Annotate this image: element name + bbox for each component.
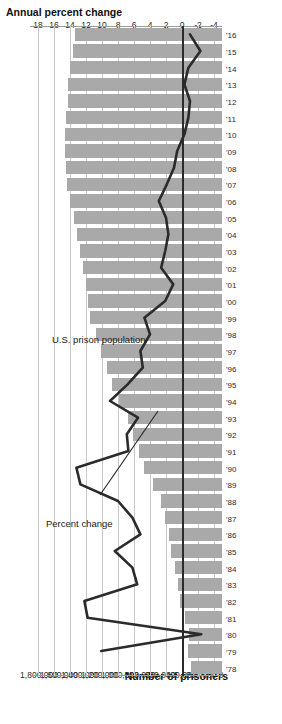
bar: [75, 28, 222, 41]
bar: [70, 194, 222, 207]
bar: [178, 578, 222, 591]
year-tick-label: '80: [226, 631, 236, 640]
bar: [107, 361, 222, 374]
year-tick-label: '79: [226, 648, 236, 657]
chart-stage: Annual percent change Number of prisoner…: [0, 0, 282, 724]
bar: [185, 611, 222, 624]
year-tick-label: '88: [226, 498, 236, 507]
bar: [80, 244, 222, 257]
year-tick-label: '09: [226, 148, 236, 157]
year-tick-label: '05: [226, 215, 236, 224]
year-tick-label: '81: [226, 615, 236, 624]
bar: [83, 261, 222, 274]
year-tick-label: '84: [226, 565, 236, 574]
bar: [165, 511, 222, 524]
bar: [180, 594, 222, 607]
year-tick-label: '90: [226, 465, 236, 474]
year-tick-label: '92: [226, 431, 236, 440]
bar: [189, 628, 222, 641]
annotation-percent-change: Percent change: [46, 518, 113, 529]
bar: [101, 344, 222, 357]
year-tick-label: '82: [226, 598, 236, 607]
bar: [112, 378, 222, 391]
year-tick-label: '97: [226, 348, 236, 357]
bar: [65, 144, 222, 157]
bar: [77, 228, 222, 241]
bar: [65, 128, 222, 141]
year-tick-label: '87: [226, 515, 236, 524]
bar: [66, 111, 222, 124]
year-tick-label: '96: [226, 365, 236, 374]
year-tick-label: '02: [226, 265, 236, 274]
year-tick-label: '15: [226, 48, 236, 57]
year-tick-label: '08: [226, 165, 236, 174]
bar: [161, 494, 222, 507]
bar: [66, 161, 222, 174]
year-tick-label: '14: [226, 65, 236, 74]
year-tick-label: '83: [226, 581, 236, 590]
annotation-leader-line: [96, 407, 166, 497]
year-tick-label: '98: [226, 331, 236, 340]
year-tick-label: '06: [226, 198, 236, 207]
bar: [90, 311, 222, 324]
bar: [86, 278, 222, 291]
year-tick-label: '85: [226, 548, 236, 557]
bar: [191, 661, 222, 674]
year-tick-label: '07: [226, 181, 236, 190]
year-tick-label: '13: [226, 81, 236, 90]
bar: [68, 78, 222, 91]
year-tick-label: '12: [226, 98, 236, 107]
bar: [67, 178, 222, 191]
annotation-prison-population: U.S. prison population: [52, 334, 145, 345]
year-tick-label: '03: [226, 248, 236, 257]
bar: [68, 94, 222, 107]
bar-series-prison-population: [30, 26, 222, 676]
bar: [88, 294, 223, 307]
year-tick-label: '93: [226, 415, 236, 424]
year-tick-label: '10: [226, 131, 236, 140]
bar: [73, 44, 222, 57]
year-tick-label: '91: [226, 448, 236, 457]
year-tick-label: '86: [226, 531, 236, 540]
bar: [119, 394, 222, 407]
bar: [171, 544, 222, 557]
year-tick-label: '04: [226, 231, 236, 240]
year-tick-label: '89: [226, 481, 236, 490]
year-tick-label: '95: [226, 381, 236, 390]
bar: [74, 211, 222, 224]
axis-title-annual-percent-change: Annual percent change: [6, 6, 122, 18]
zero-line: [182, 26, 184, 676]
year-tick-label: '01: [226, 281, 236, 290]
bar: [188, 644, 222, 657]
bar: [169, 528, 222, 541]
year-tick-label: '11: [226, 115, 236, 124]
year-tick-label: '16: [226, 31, 236, 40]
year-tick-label: '00: [226, 298, 236, 307]
year-tick-label: '94: [226, 398, 236, 407]
plot-area: [30, 26, 222, 676]
year-tick-label: '99: [226, 315, 236, 324]
bar: [70, 61, 222, 74]
year-tick-label: '78: [226, 665, 236, 674]
